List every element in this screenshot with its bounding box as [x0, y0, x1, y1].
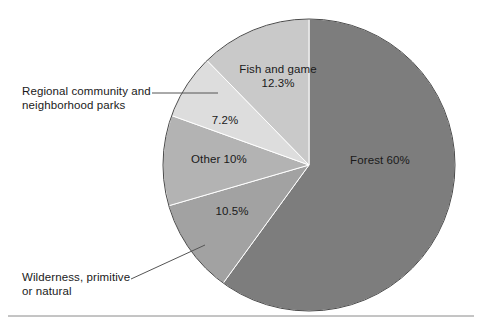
- slice-label-other: Other 10%: [176, 152, 262, 166]
- pie-chart-figure: Regional community andneighborhood parks…: [0, 0, 482, 328]
- slice-label-forest: Forest 60%: [336, 153, 424, 167]
- slice-label-fish-line2: 12.3%: [261, 77, 294, 89]
- slice-label-regional-line1: Regional community and: [22, 85, 151, 97]
- slice-label-fish-and-game: Fish and game12.3%: [219, 62, 337, 90]
- slice-label-regional-community: Regional community andneighborhood parks: [22, 84, 151, 112]
- slice-label-wilderness-line1: Wilderness, primitive: [22, 271, 130, 283]
- slice-label-regional-line2: neighborhood parks: [22, 99, 125, 111]
- slice-label-wilderness: Wilderness, primitiveor natural: [22, 270, 130, 298]
- slice-label-fish-line1: Fish and game: [239, 63, 316, 75]
- slice-label-wilderness-line2: or natural: [22, 285, 72, 297]
- slice-value-wilderness: 10.5%: [203, 204, 261, 218]
- slice-value-regional-community: 7.2%: [198, 113, 252, 127]
- leader-line-wilderness: [131, 245, 205, 279]
